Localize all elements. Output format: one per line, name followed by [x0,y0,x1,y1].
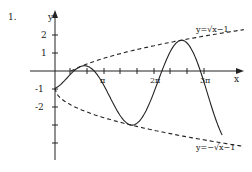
y-tick-label: -2 [35,102,44,112]
lower-curve-label: y=−√x−1 [195,143,235,152]
x-tick-label: 3π [200,76,210,85]
problem-number: 1. [8,12,17,22]
y-tick-label: -1 [35,84,44,94]
y-axis-label: y [47,12,54,22]
upper-envelope-curve [71,30,244,71]
x-axis-label: x [234,74,239,84]
main-curve [55,40,222,135]
y-tick-label: 2 [41,30,47,40]
figure: 1. x y π2π3π 21-1-2 y=√x−1 y=−√x−1 [0,0,252,172]
upper-curve-label: y=√x−1 [195,25,229,34]
y-tick-label: 1 [41,48,47,58]
